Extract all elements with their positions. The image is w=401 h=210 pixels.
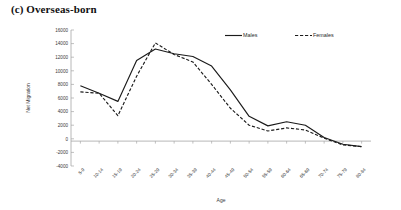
y-axis-tick-label: 14000: [55, 41, 68, 46]
y-axis-tick-label: 12000: [55, 55, 68, 60]
legend-females-label: Females: [313, 32, 334, 38]
y-axis-title: Net Migration: [25, 83, 31, 113]
x-axis-tick-label: 70-74: [317, 167, 329, 179]
y-axis-tick-label: -4000: [56, 164, 68, 169]
y-axis-tick-label: 8000: [58, 82, 69, 87]
x-axis-tick-label: 35-39: [186, 167, 198, 179]
series-line-males: [80, 49, 361, 147]
x-axis-tick-label: 45-49: [224, 167, 236, 179]
x-axis-tick-label: 55-59: [261, 167, 273, 179]
y-axis-tick-label: 0: [65, 137, 68, 142]
data-series-group: [80, 43, 361, 147]
series-line-females: [80, 43, 361, 147]
x-axis-tick-label: 10-14: [92, 167, 104, 179]
x-axis-tick-label: 15-19: [111, 167, 123, 179]
y-axis-tick-label: 10000: [55, 69, 68, 74]
x-axis-tick-label: 25-29: [149, 167, 161, 179]
x-axis: 5-910-1415-1920-2425-2930-3435-3940-4445…: [71, 141, 371, 179]
x-axis-title: Age: [217, 197, 226, 203]
legend-males-label: Males: [243, 32, 258, 38]
x-axis-tick-label: 40-44: [205, 167, 217, 179]
y-axis-tick-label: 16000: [55, 28, 68, 33]
x-axis-tick-label: 80-84: [355, 167, 367, 179]
x-axis-tick-label: 30-34: [167, 167, 179, 179]
x-axis-tick-label: 50-54: [242, 167, 254, 179]
chart-legend: MalesFemales: [225, 32, 334, 38]
x-axis-tick-label: 75-79: [336, 167, 348, 179]
y-axis-tick-label: 2000: [58, 123, 69, 128]
chart-canvas: 1600014000120001000080006000400020000-20…: [0, 0, 401, 210]
x-axis-tick-label: 60-64: [280, 167, 292, 179]
x-axis-tick-label: 65-69: [299, 167, 311, 179]
y-axis-tick-label: 4000: [58, 109, 69, 114]
x-axis-tick-label: 20-24: [130, 167, 142, 179]
y-axis: 1600014000120001000080006000400020000-20…: [55, 28, 74, 169]
figure-overseas-born: (c) Overseas-born 1600014000120001000080…: [0, 0, 401, 210]
x-axis-ticks: 5-910-1415-1920-2425-2930-3435-3940-4445…: [77, 141, 367, 179]
x-axis-tick-label: 5-9: [77, 167, 86, 176]
y-axis-tick-label: -2000: [56, 150, 68, 155]
y-axis-tick-label: 6000: [58, 96, 69, 101]
